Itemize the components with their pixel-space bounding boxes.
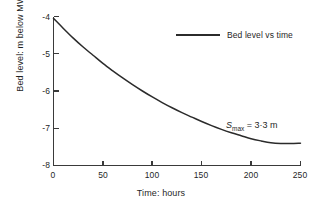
x-tick-label: 250: [293, 170, 307, 180]
annotation-subscript: max: [232, 125, 244, 132]
legend-line-swatch-icon: [176, 31, 220, 39]
x-tick-label: 100: [145, 170, 159, 180]
y-axis-ticks: [54, 17, 59, 166]
y-axis-title: Bed level: m below MWL: [15, 0, 25, 121]
x-tick-label: 150: [194, 170, 208, 180]
y-tick-label: -4: [32, 12, 50, 22]
y-tick-label: -7: [32, 123, 50, 133]
y-tick-label: -5: [32, 49, 50, 59]
x-axis-title: Time: hours: [0, 188, 322, 198]
x-tick-label: 200: [244, 170, 258, 180]
x-tick-label: 0: [51, 170, 56, 180]
chart-legend: Bed level vs time: [176, 30, 293, 40]
y-tick-label: -8: [32, 160, 50, 170]
annotation-max-scour-depth: Smax = 3·3 m: [226, 120, 278, 132]
x-axis-ticks: [54, 161, 301, 166]
chart-figure: -4 -5 -6 -7 -8 0 50 100 150 200 250 Time…: [0, 0, 322, 210]
x-tick-label: 50: [98, 170, 108, 180]
y-tick-label: -6: [32, 86, 50, 96]
legend-label-bed-level: Bed level vs time: [227, 30, 293, 40]
annotation-value: = 3·3 m: [244, 120, 277, 130]
